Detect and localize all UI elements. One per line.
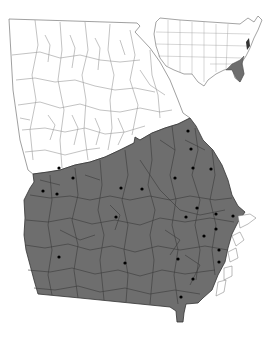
georgia-distribution-map xyxy=(0,0,271,341)
map-canvas xyxy=(0,0,271,341)
us-outline xyxy=(154,16,262,86)
us-inset-map xyxy=(154,16,262,86)
